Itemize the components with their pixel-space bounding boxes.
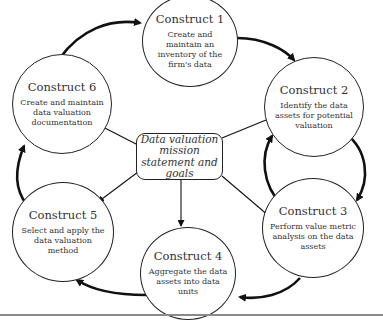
line-center-to-c2 <box>222 120 266 138</box>
arrow-c1-to-c2 <box>237 38 294 60</box>
construct-4-description: Aggregate the data assets into data unit… <box>141 267 235 297</box>
arrow-c3-to-c4 <box>240 278 300 298</box>
arrow-c4-to-c5 <box>77 280 146 295</box>
construct-5-description: Select and apply the data valuation meth… <box>13 226 113 256</box>
mission-statement-box: Data valuation mission statement and goa… <box>136 133 223 180</box>
construct-2-description: Identify the data assets for potential v… <box>265 101 363 131</box>
construct-3-node: Construct 3 Perform value metric analysi… <box>262 178 364 278</box>
construct-6-title: Construct 6 <box>28 81 97 94</box>
bottom-divider <box>0 314 383 316</box>
construct-3-title: Construct 3 <box>279 205 348 218</box>
construct-5-title: Construct 5 <box>29 209 98 222</box>
construct-3-description: Perform value metric analysis on the dat… <box>263 222 363 252</box>
arrow-center-to-c5 <box>98 172 138 202</box>
construct-2-node: Construct 2 Identify the data assets for… <box>264 57 364 157</box>
construct-1-description: Create and maintain an inventory of the … <box>143 30 237 70</box>
construct-1-title: Construct 1 <box>156 13 225 26</box>
construct-6-node: Construct 6 Create and maintain data val… <box>12 54 112 154</box>
construct-6-description: Create and maintain data valuation docum… <box>13 98 111 128</box>
construct-4-title: Construct 4 <box>154 250 223 263</box>
construct-2-title: Construct 2 <box>280 84 349 97</box>
construct-5-node: Construct 5 Select and apply the data va… <box>12 182 114 282</box>
arrow-c6-to-c1 <box>60 22 140 58</box>
construct-4-node: Construct 4 Aggregate the data assets in… <box>140 227 236 320</box>
